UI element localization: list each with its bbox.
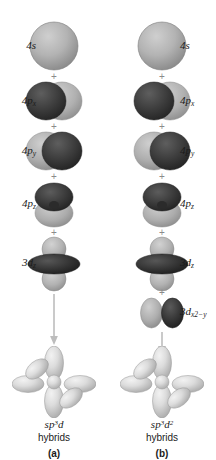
orbital-label-4s-b: 4s — [180, 40, 190, 51]
caption-sp3d2: sp3d2 hybrids (b) — [108, 418, 216, 460]
hybrid-orbital-sp3d — [12, 346, 96, 418]
orbital-label-4py-a: 4py — [22, 145, 36, 157]
caption-sp3d: sp3d hybrids (a) — [0, 418, 108, 460]
orbital-label-4py-b: 4py — [180, 145, 194, 157]
orbital-3dx2y2-b — [139, 296, 185, 330]
transform-arrow-a — [50, 294, 59, 350]
hybrid-orbital-sp3d2 — [120, 346, 204, 418]
orbital-label-4pz-b: 4pz — [180, 198, 194, 210]
orbital-label-4s-a: 4s — [26, 40, 36, 51]
orbital-label-4px-a: 4px — [22, 95, 36, 107]
column-sp3d: 4s + — [0, 0, 108, 460]
column-sp3d2: 4s + — [108, 0, 216, 460]
orbital-label-3dz2-a: 3dz — [22, 257, 36, 269]
orbital-hybridization-figure: 4s + — [0, 0, 216, 460]
orbital-label-4px-b: 4px — [180, 95, 194, 107]
orbital-label-3dz2-b: 3dz — [180, 257, 194, 269]
orbital-label-3dx2y2-b: 3dx2−y — [180, 306, 206, 318]
orbital-label-4pz-a: 4pz — [22, 198, 36, 210]
